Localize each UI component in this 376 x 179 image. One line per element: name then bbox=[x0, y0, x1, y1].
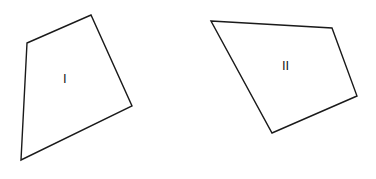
figure-canvas: I II bbox=[0, 0, 376, 179]
quadrilateral-ii-outline[interactable] bbox=[211, 21, 357, 133]
geometry-figure-svg bbox=[0, 0, 376, 179]
quadrilateral-i-label: I bbox=[63, 72, 67, 85]
quadrilateral-ii-label: II bbox=[282, 59, 289, 72]
quadrilateral-i-outline[interactable] bbox=[21, 15, 132, 160]
